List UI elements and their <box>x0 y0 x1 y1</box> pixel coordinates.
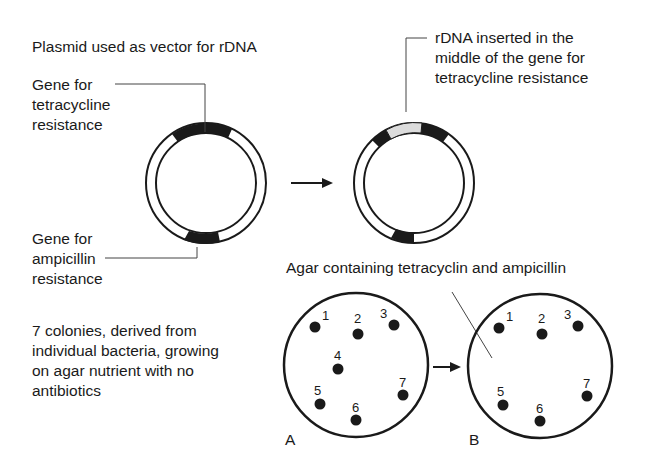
colony-number: 7 <box>583 374 590 393</box>
colony-number: 1 <box>322 306 329 325</box>
plasmid-original <box>105 84 266 258</box>
colony-number: 6 <box>352 398 359 417</box>
colony-number: 3 <box>380 304 387 323</box>
colony-number: 5 <box>314 381 321 400</box>
tet-gene-label: tetracycline <box>32 95 110 114</box>
tet-gene-segment <box>172 123 232 142</box>
plate-b-label: B <box>469 430 479 449</box>
colony-number: 6 <box>536 399 543 418</box>
colony-number: 1 <box>506 307 513 326</box>
colony-number: 2 <box>354 309 361 328</box>
arrow-right-icon <box>433 362 461 372</box>
amp-gene-label: ampicillin <box>32 249 96 268</box>
colony-number: 5 <box>497 382 504 401</box>
insert-label: tetracycline resistance <box>435 68 588 87</box>
colony-number: 7 <box>399 373 406 392</box>
colony-number: 4 <box>334 346 341 365</box>
plate-a-label: A <box>285 430 295 449</box>
colonies-label: antibiotics <box>32 381 101 400</box>
colonies-label: individual bacteria, growing <box>32 341 219 360</box>
insert-label: rDNA inserted in the <box>435 28 574 47</box>
rdna-insert-segment <box>386 123 422 139</box>
tet-gene-label: resistance <box>32 115 103 134</box>
amp-gene-label: Gene for <box>32 229 92 248</box>
diagram-title: Plasmid used as vector for rDNA <box>32 37 257 56</box>
amp-gene-label: resistance <box>32 269 103 288</box>
colonies-label: 7 colonies, derived from <box>32 321 197 340</box>
colony-number: 3 <box>564 305 571 324</box>
colony-number: 2 <box>538 309 545 328</box>
arrow-right-icon <box>291 178 333 188</box>
plate-caption: Agar containing tetracyclin and ampicill… <box>286 258 566 277</box>
colonies-label: on agar nutrient with no <box>32 361 194 380</box>
insert-label: middle of the gene for <box>435 48 585 67</box>
tet-gene-label: Gene for <box>32 75 92 94</box>
